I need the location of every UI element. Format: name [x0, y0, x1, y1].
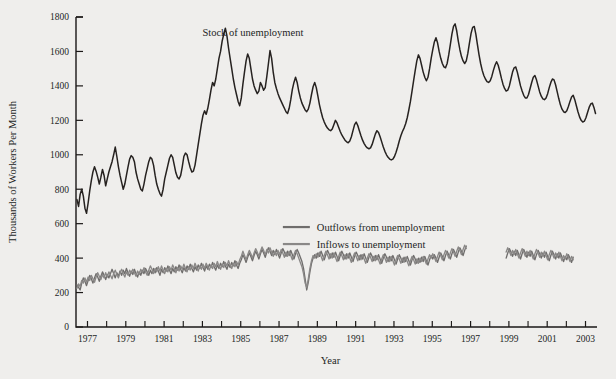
chart-canvas: 020040060080010001200140016001800 197719… [0, 0, 616, 379]
y-tick-label: 200 [55, 288, 70, 298]
x-tick-label: 1989 [308, 334, 327, 344]
legend-label: Inflows to unemployment [317, 239, 426, 250]
y-tick-label: 1800 [50, 12, 69, 22]
unemployment-flows-chart: 020040060080010001200140016001800 197719… [0, 0, 616, 379]
y-tick-label: 800 [55, 185, 70, 195]
y-tick-label: 1000 [50, 150, 69, 160]
series-annotation-stock: Stock of unemployment [202, 27, 303, 38]
y-tick-label: 0 [64, 322, 69, 332]
x-tick-label: 1983 [193, 334, 212, 344]
x-tick-label: 1991 [346, 334, 365, 344]
y-tick-label: 400 [55, 254, 70, 264]
x-tick-label: 1987 [270, 334, 289, 344]
x-tick-label: 1985 [231, 334, 250, 344]
y-tick-label: 1200 [50, 116, 69, 126]
x-tick-label: 1977 [78, 334, 97, 344]
x-tick-label: 1981 [155, 334, 174, 344]
x-tick-label: 1979 [116, 334, 135, 344]
x-tick-label: 1995 [423, 334, 442, 344]
chart-background [0, 0, 616, 379]
x-tick-label: 1999 [499, 334, 518, 344]
y-tick-label: 600 [55, 219, 70, 229]
x-tick-label: 2003 [576, 334, 595, 344]
x-axis-title: Year [321, 355, 341, 366]
y-axis-title: Thousands of Workers Per Month [7, 100, 18, 243]
x-tick-label: 1997 [461, 334, 480, 344]
legend-label: Outflows from unemployment [317, 222, 445, 233]
x-tick-label: 1993 [384, 334, 403, 344]
x-tick-label: 2001 [538, 334, 557, 344]
y-tick-label: 1600 [50, 47, 69, 57]
y-tick-label: 1400 [50, 81, 69, 91]
